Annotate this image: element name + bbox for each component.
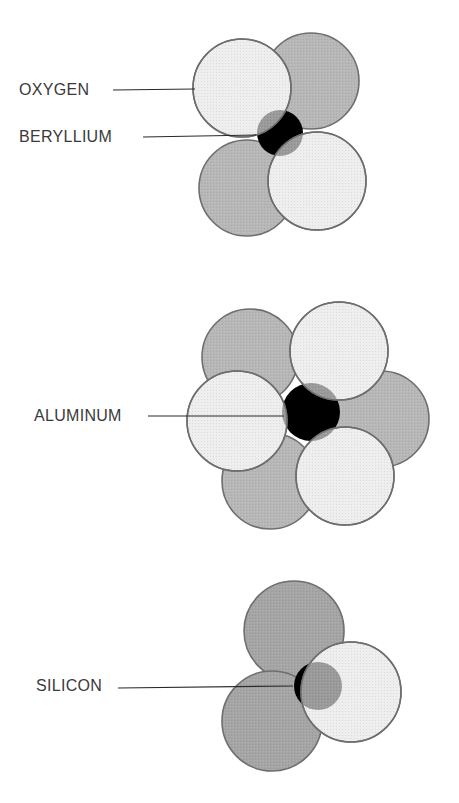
label-silicon: SILICON <box>36 678 102 694</box>
panel-silicon <box>118 581 401 771</box>
leader-line <box>113 89 195 90</box>
panel-beryllium <box>113 33 366 236</box>
label-beryllium: BERYLLIUM <box>19 129 112 145</box>
label-aluminum: ALUMINUM <box>34 408 122 424</box>
label-oxygen: OXYGEN <box>19 82 89 98</box>
panel-aluminum <box>148 302 429 529</box>
